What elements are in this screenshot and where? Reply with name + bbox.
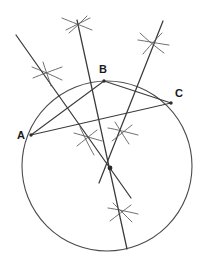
vertex-point-c: [169, 101, 172, 104]
circumcircle-diagram: A B C: [0, 0, 208, 268]
circumcenter-point: [108, 166, 113, 171]
point-label-a: A: [17, 130, 25, 141]
vertex-point-b: [102, 79, 105, 82]
vertex-point-a: [29, 133, 32, 136]
point-label-b: B: [99, 64, 107, 75]
circumcircle: [22, 81, 192, 251]
arc-cross-upper-left: [32, 62, 62, 86]
point-label-c: C: [175, 88, 183, 99]
arc-cross-lower-right: [108, 122, 138, 144]
arc-cross-top: [62, 16, 92, 33]
arc-cross-bottom: [108, 203, 138, 222]
geometry-canvas: [0, 0, 208, 268]
